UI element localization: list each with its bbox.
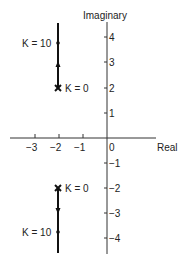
k10-marker: [56, 41, 60, 45]
x-tick-label: −1: [74, 142, 86, 153]
k10-marker: [56, 230, 60, 234]
y-tick-label: −2: [109, 183, 121, 194]
real-ticks: [35, 134, 83, 138]
arrow-up-icon: [56, 61, 61, 67]
y-tick-label: 3: [109, 57, 115, 68]
imaginary-axis-label: Imaginary: [83, 10, 127, 21]
y-tick-label: −1: [109, 158, 121, 169]
y-tick-label: 4: [109, 32, 115, 43]
real-axis-label: Real: [157, 142, 178, 153]
k0-upper-label: K = 0: [65, 83, 89, 94]
root-locus-diagram: −3 −2 −1 0 Real 4 3 2 1 −1 −2 −3 −4 Imag…: [0, 0, 188, 264]
k10-upper-label: K = 10: [22, 38, 52, 49]
k0-lower-label: K = 0: [65, 183, 89, 194]
y-tick-label: −3: [109, 208, 121, 219]
y-tick-label: −4: [109, 233, 121, 244]
x-tick-label: 0: [109, 142, 115, 153]
arrow-down-icon: [56, 208, 61, 214]
y-tick-label: 1: [109, 108, 115, 119]
x-tick-label: −2: [50, 142, 62, 153]
y-tick-label: 2: [109, 83, 115, 94]
k10-lower-label: K = 10: [22, 227, 52, 238]
x-tick-label: −3: [26, 142, 38, 153]
